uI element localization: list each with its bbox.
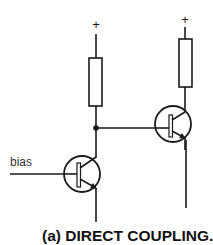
transistor-q1 <box>64 156 100 192</box>
bias-label: bias <box>10 155 32 169</box>
diagram-caption: (a) DIRECT COUPLING. <box>42 227 213 244</box>
resistor-r2 <box>179 39 192 87</box>
circuit-diagram: + + bias (a) DIRECT COUPLING. <box>0 0 213 245</box>
resistor-r1 <box>89 58 102 106</box>
supply-plus-right: + <box>181 12 189 27</box>
supply-plus-left: + <box>92 17 100 32</box>
